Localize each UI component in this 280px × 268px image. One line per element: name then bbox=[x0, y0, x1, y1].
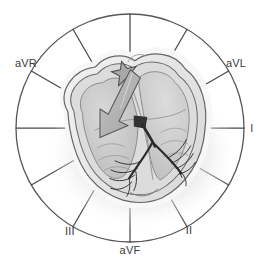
lead-label-II: II bbox=[186, 224, 193, 236]
lead-label-III: III bbox=[65, 225, 75, 237]
lead-label-aVF: aVF bbox=[120, 244, 141, 256]
lead-label-I: I bbox=[250, 122, 253, 134]
figure-canvas: aVR aVL I II aVF III bbox=[0, 0, 280, 268]
hexaxial-heart-diagram: aVR aVL I II aVF III bbox=[0, 0, 280, 268]
lead-label-aVL: aVL bbox=[226, 57, 246, 69]
lead-label-aVR: aVR bbox=[15, 57, 37, 69]
